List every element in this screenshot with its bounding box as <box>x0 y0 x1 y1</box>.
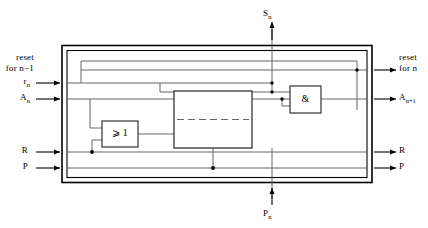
label-pn: Pn <box>263 208 271 222</box>
label-an: An <box>0 92 30 106</box>
label-sn: Sn <box>263 8 271 22</box>
label-an1: An+1 <box>399 92 416 106</box>
label-r-right: R <box>399 145 405 155</box>
label-reset-for-prev-line2: for n−1 <box>0 63 34 73</box>
and-gate-label: & <box>290 93 321 104</box>
center-logic-block[interactable] <box>174 91 252 148</box>
label-r-left: R <box>0 145 28 155</box>
label-reset-for-prev-line1: reset <box>0 52 34 62</box>
label-p-right: P <box>399 161 404 171</box>
label-rn: rn <box>0 76 30 90</box>
figure-canvas: reset for n−1 rn An R P Sn Pn reset for … <box>0 0 428 228</box>
label-reset-for-n-line2: for n <box>399 63 417 73</box>
label-reset-for-n-line1: reset <box>399 52 417 62</box>
circuit-diagram <box>0 0 428 228</box>
or-gate-label: ⩾ 1 <box>102 127 138 138</box>
label-p-left: P <box>0 161 28 171</box>
